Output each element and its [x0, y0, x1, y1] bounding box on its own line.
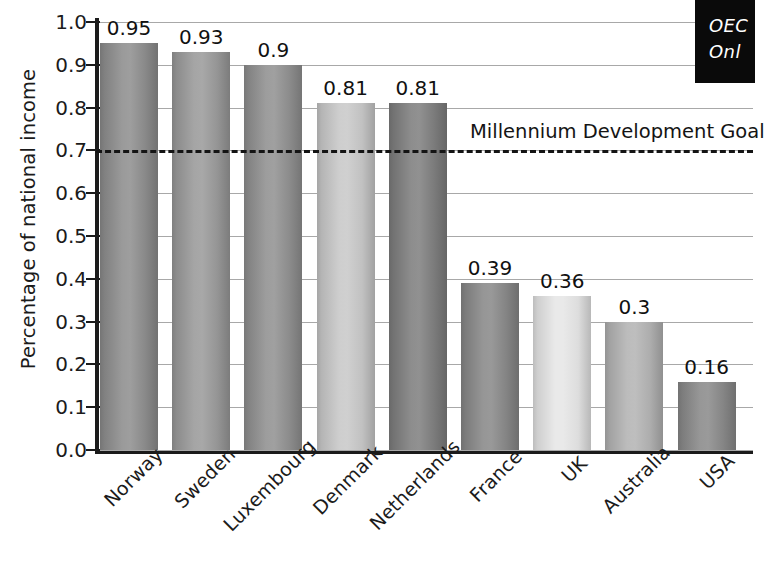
- watermark-line-2: Onl: [709, 39, 755, 65]
- bar: [533, 296, 591, 450]
- bar: [172, 52, 230, 450]
- y-axis-tick-label: 0.6: [27, 183, 87, 203]
- millennium-development-goal-label: Millennium Development Goal: [470, 120, 765, 143]
- bar: [389, 103, 447, 450]
- x-axis-tick-label: Norway: [99, 443, 166, 510]
- plot-area: 0.950.930.90.810.810.390.360.30.16 Mille…: [100, 22, 753, 450]
- x-axis-tick-label: USA: [695, 449, 739, 493]
- y-axis-tick: [86, 64, 100, 66]
- bar: [461, 283, 519, 450]
- bar-value-label: 0.81: [308, 77, 384, 99]
- y-axis-tick-label: 0.1: [27, 397, 87, 417]
- bar-series: 0.950.930.90.810.810.390.360.30.16: [100, 22, 753, 450]
- y-axis-tick: [86, 449, 100, 451]
- bar: [678, 382, 736, 450]
- bar-value-label: 0.81: [380, 77, 456, 99]
- bar: [244, 65, 302, 450]
- y-axis-tick-labels: 0.00.10.20.30.40.50.60.70.80.91.0: [25, 22, 87, 450]
- y-axis-tick-label: 1.0: [27, 12, 87, 32]
- millennium-development-goal-line: [96, 150, 753, 153]
- bar-value-label: 0.16: [669, 356, 745, 378]
- bar: [605, 322, 663, 450]
- bar-value-label: 0.9: [235, 39, 311, 61]
- y-axis-tick: [86, 235, 100, 237]
- bar-value-label: 0.39: [452, 257, 528, 279]
- y-axis-tick-label: 0.7: [27, 140, 87, 160]
- y-axis-tick: [86, 278, 100, 280]
- y-axis-tick-label: 0.0: [27, 440, 87, 460]
- watermark-line-1: OEC: [709, 13, 755, 39]
- y-axis-tick: [86, 192, 100, 194]
- bar: [317, 103, 375, 450]
- y-axis-tick-label: 0.3: [27, 312, 87, 332]
- y-axis-tick-label: 0.4: [27, 269, 87, 289]
- y-axis-tick-label: 0.9: [27, 55, 87, 75]
- bar-value-label: 0.36: [524, 270, 600, 292]
- x-axis-tick-label: UK: [557, 452, 591, 486]
- x-axis-tick-label: France: [465, 445, 526, 506]
- bar: [100, 43, 158, 450]
- x-axis-tick-labels: NorwaySwedenLuxembourgDenmarkNetherlands…: [100, 454, 753, 563]
- y-axis-tick-label: 0.2: [27, 354, 87, 374]
- bar-value-label: 0.95: [91, 17, 167, 39]
- x-axis-tick-label: Sweden: [170, 443, 240, 513]
- y-axis-tick-label: 0.8: [27, 98, 87, 118]
- source-watermark: OEC Onl: [695, 0, 755, 83]
- bar-value-label: 0.3: [596, 296, 672, 318]
- y-axis-tick-label: 0.5: [27, 226, 87, 246]
- y-axis-tick: [86, 363, 100, 365]
- y-axis-tick: [86, 321, 100, 323]
- y-axis-tick: [86, 107, 100, 109]
- y-axis-tick: [86, 406, 100, 408]
- bar-value-label: 0.93: [163, 26, 239, 48]
